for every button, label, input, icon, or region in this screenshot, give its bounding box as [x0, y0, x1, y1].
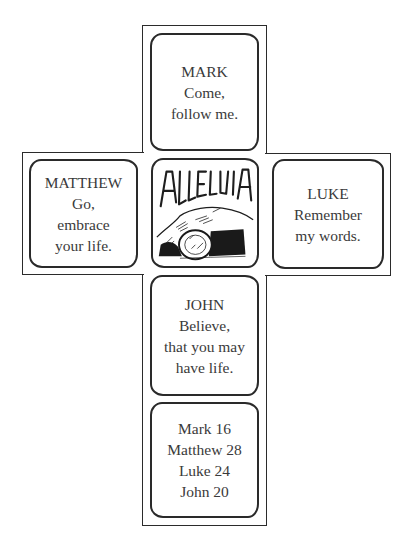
- panel-scripture-references: Mark 16 Matthew 28 Luke 24 John 20: [150, 402, 259, 518]
- panel-heading: JOHN: [164, 294, 245, 315]
- reference-line: Matthew 28: [167, 439, 241, 460]
- panel-line: Remember: [294, 204, 362, 225]
- panel-matthew: MATTHEW Go, embrace your life.: [29, 159, 138, 268]
- panel-luke: LUKE Remember my words.: [272, 159, 384, 269]
- tomb-opening: [209, 229, 246, 256]
- reference-line: Mark 16: [167, 418, 241, 439]
- panel-line: follow me.: [171, 103, 238, 124]
- panel-line: Go,: [45, 193, 123, 214]
- empty-tomb-illustration: [153, 160, 257, 266]
- panel-mark-text: MARK Come, follow me.: [171, 61, 238, 124]
- panel-line: Come,: [171, 82, 238, 103]
- panel-line: embrace: [45, 214, 123, 235]
- panel-mark: MARK Come, follow me.: [150, 33, 259, 151]
- alleluia-lettering: [161, 170, 252, 207]
- panel-heading: MATTHEW: [45, 172, 123, 193]
- panel-john: JOHN Believe, that you may have life.: [150, 275, 259, 396]
- reference-line: John 20: [167, 481, 241, 502]
- panel-line: have life.: [164, 357, 245, 378]
- panel-line: Believe,: [164, 315, 245, 336]
- panel-line: that you may: [164, 336, 245, 357]
- panel-matthew-text: MATTHEW Go, embrace your life.: [45, 172, 123, 256]
- panel-alleluia: [151, 158, 259, 268]
- scripture-references-text: Mark 16 Matthew 28 Luke 24 John 20: [167, 418, 241, 502]
- panel-line: my words.: [294, 225, 362, 246]
- panel-heading: MARK: [171, 61, 238, 82]
- reference-line: Luke 24: [167, 460, 241, 481]
- panel-john-text: JOHN Believe, that you may have life.: [164, 294, 245, 378]
- panel-luke-text: LUKE Remember my words.: [294, 183, 362, 246]
- panel-heading: LUKE: [294, 183, 362, 204]
- panel-line: your life.: [45, 235, 123, 256]
